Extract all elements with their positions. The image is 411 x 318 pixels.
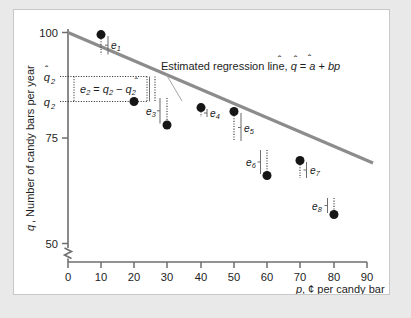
data-point: [330, 210, 339, 219]
e6-sub: 6: [252, 161, 257, 170]
y-tick-label-qhat2: q ̂ 2: [44, 65, 55, 87]
svg-text:Estimated regression line, q =: Estimated regression line, q = a + bp: [161, 60, 340, 72]
estimated-regression-line: [68, 33, 373, 164]
y-tick-label-q2: q 2: [44, 96, 55, 111]
figure-panel: 100 75 50 q ̂ 2 q 2 0 10 20 30 40 50 60 …: [13, 9, 390, 295]
e3-sub: 3: [152, 110, 157, 119]
e2-eq-qhat-accent: ̂: [134, 77, 138, 79]
qhat2-subscript: 2: [50, 77, 55, 86]
scatter-plot-with-regression-line: 100 75 50 q ̂ 2 q 2 0 10 20 30 40 50 60 …: [14, 10, 389, 294]
q2-subscript: 2: [50, 102, 55, 111]
y-axis-title: q , Number of candy bars per year: [24, 65, 36, 231]
e2-eq-equals: =: [90, 83, 103, 95]
residual-marker-e8: e8: [312, 198, 339, 219]
svg-text:e7: e7: [310, 165, 321, 178]
x-tick-label-60: 60: [261, 271, 273, 283]
residual-decomposition-label: e2 = q2 − q2 ̂: [80, 77, 138, 98]
regression-formula-plus: +: [315, 60, 328, 72]
svg-text:e3: e3: [146, 106, 157, 119]
svg-text:e2 = q2 − q2: e2 = q2 − q2: [80, 83, 136, 97]
e2-eq-qhat-sub: 2: [131, 88, 136, 97]
data-point: [130, 97, 139, 106]
residual-marker-e3: e3: [146, 98, 172, 130]
x-tick-label-40: 40: [195, 271, 207, 283]
residual-marker-e4: e4: [197, 103, 220, 121]
x-tick-label-20: 20: [128, 271, 140, 283]
e7-sub: 7: [316, 169, 321, 178]
y-axis-title-symbol: q: [24, 224, 36, 231]
y-axis-ticks: [62, 33, 68, 244]
data-point: [230, 107, 239, 116]
x-tick-label-80: 80: [328, 271, 340, 283]
y-axis-title-rest: , Number of candy bars per year: [24, 65, 36, 223]
data-point: [163, 121, 172, 130]
residual-marker-e6: e6: [246, 150, 272, 180]
x-axis-title: p , ¢ per candy bar: [295, 283, 385, 294]
regression-formula-p: p: [333, 60, 340, 72]
ahat-accent-annotation: ̂: [294, 55, 298, 57]
x-tick-label-10: 10: [95, 271, 107, 283]
x-tick-label-50: 50: [228, 271, 240, 283]
data-point: [197, 103, 206, 112]
svg-text:e8: e8: [312, 201, 323, 214]
data-point: [97, 30, 106, 39]
data-point: [296, 156, 305, 165]
e4-sub: 4: [216, 112, 220, 121]
x-tick-label-90: 90: [361, 271, 373, 283]
e2-eq-minus: −: [113, 83, 126, 95]
y-tick-label-50: 50: [46, 238, 58, 250]
x-tick-label-30: 30: [161, 271, 173, 283]
e1-sub: 1: [117, 44, 121, 53]
y-axis-break-icon: [65, 248, 72, 259]
e5-sub: 5: [250, 127, 255, 136]
y-tick-label-100: 100: [39, 27, 58, 39]
svg-text:e5: e5: [244, 123, 255, 136]
regression-formula-eq: =: [297, 60, 310, 72]
e8-sub: 8: [318, 205, 323, 214]
svg-text:e4: e4: [210, 108, 220, 121]
qhat-accent-annotation: ̂: [278, 55, 282, 57]
x-axis-ticks: [68, 262, 367, 268]
x-tick-label-0: 0: [65, 271, 71, 283]
regression-line-annotation: Estimated regression line, q = a + bp ̂ …: [161, 54, 340, 102]
qhat2-hat-accent: ̂: [45, 65, 49, 67]
data-point: [263, 171, 272, 180]
bhat-accent-annotation: ̂: [308, 54, 312, 56]
x-tick-label-70: 70: [294, 271, 306, 283]
q2-base: q: [44, 96, 51, 108]
qhat2-base: q: [44, 71, 51, 83]
y-tick-label-75: 75: [46, 132, 58, 144]
x-axis-title-rest: , ¢ per candy bar: [302, 283, 385, 294]
y-axis: [65, 29, 72, 262]
residual-marker-e7: e7: [296, 156, 321, 178]
svg-text:e6: e6: [246, 157, 257, 170]
regression-annotation-text: Estimated regression line,: [161, 60, 291, 72]
